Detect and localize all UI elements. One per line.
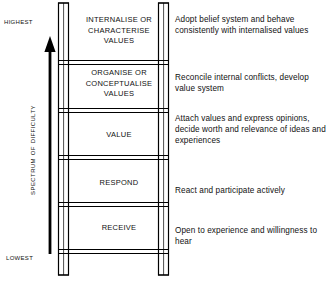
ladder-step-description: Adopt belief system and behave consisten…: [175, 14, 329, 36]
ladder-step-description: Reconcile internal conflicts, develop va…: [175, 72, 329, 94]
axis-label-highest: Highest: [4, 16, 33, 26]
spectrum-of-difficulty-diagram: Highest Lowest Spectrum of difficulty: [0, 0, 330, 286]
ladder-step-description: Attach values and express opinions, deci…: [175, 113, 329, 146]
ladder-rung-3: [59, 156, 169, 160]
ladder-step-description: Open to experience and willingness to he…: [175, 225, 329, 247]
ladder-step-description: React and participate actively: [175, 185, 329, 196]
ladder-step-label: INTERNALISE ORCHARACTERISEVALUES: [68, 15, 170, 47]
ladder-step-label: RECEIVE: [68, 223, 170, 234]
axis-label-spectrum-of-difficulty: Spectrum of difficulty: [27, 70, 37, 230]
ladder-rung-2: [59, 109, 169, 113]
ladder-rung-4: [59, 203, 169, 207]
ladder-step-label: RESPOND: [68, 178, 170, 189]
ladder-step-label: ORGANISE ORCONCEPTUALISEVALUES: [68, 68, 170, 100]
ladder-rail-left: [59, 3, 69, 275]
ladder-rung-1: [59, 61, 169, 65]
axis-label-lowest: Lowest: [6, 252, 33, 262]
ladder-step-label: VALUE: [68, 130, 170, 141]
ladder-rung-5: [59, 250, 169, 254]
